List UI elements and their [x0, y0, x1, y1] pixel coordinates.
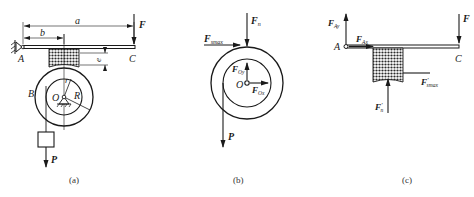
lever-beam — [24, 46, 135, 49]
label-fax: FAx — [355, 34, 368, 45]
pin-o — [245, 81, 249, 85]
label-e: e — [93, 58, 103, 62]
panel-a: a b F A C e r R O B — [11, 14, 146, 185]
caption-c: (c) — [402, 175, 412, 185]
label-o: O — [236, 79, 243, 90]
label-b-wheel: B — [28, 88, 34, 99]
label-a: a — [75, 15, 80, 26]
label-fn-prime: F′n — [374, 101, 384, 113]
panel-b: Fn Fsmax O FOy FOx P (b) — [203, 13, 283, 185]
label-p: P — [228, 131, 235, 142]
label-f: F — [138, 19, 146, 30]
panel-c: A C F FAy FAx F′smax F′n (c) — [327, 13, 470, 185]
label-b: b — [40, 27, 45, 38]
pin-a — [344, 45, 348, 49]
label-p: P — [51, 154, 58, 165]
label-fsmax-prime: F′smax — [420, 76, 438, 88]
brake-mechanism-diagram: a b F A C e r R O B — [0, 0, 474, 197]
caption-a: (a) — [69, 175, 79, 185]
label-point-a: A — [333, 41, 341, 52]
label-point-c: C — [455, 53, 462, 64]
label-r: r — [65, 75, 69, 85]
label-fay: FAy — [327, 18, 340, 29]
weight-block — [38, 132, 54, 147]
label-o: O — [52, 92, 59, 103]
label-R: R — [73, 90, 80, 101]
label-fox: FOx — [251, 85, 265, 96]
brake-block — [373, 48, 403, 82]
label-f: F — [462, 13, 470, 24]
label-fn: Fn — [250, 15, 261, 27]
label-foy: FOy — [231, 64, 245, 75]
label-point-c: C — [129, 53, 136, 64]
caption-b: (b) — [233, 175, 244, 185]
label-fsmax: Fsmax — [203, 33, 223, 45]
label-point-a: A — [17, 53, 25, 64]
